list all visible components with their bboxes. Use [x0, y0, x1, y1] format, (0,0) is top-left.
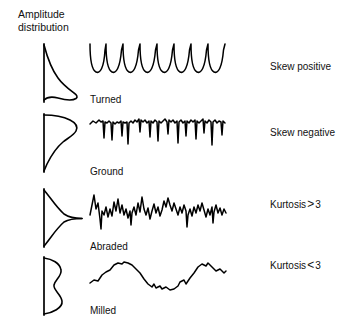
stat-value: 3	[315, 199, 321, 210]
figure-heading: Amplitude distribution	[18, 8, 128, 33]
platykurtic-curve	[30, 253, 92, 319]
stat-prefix: Kurtosis	[270, 260, 306, 271]
greater-than-icon: >	[306, 197, 315, 211]
figure-row-turned: Turned Skew positive	[0, 40, 350, 118]
figure-row-ground: Ground Skew negative	[0, 110, 350, 188]
figure-row-milled: Milled Kurtosis<3	[0, 253, 350, 325]
process-label-milled: Milled	[90, 305, 116, 316]
positive-skew-curve	[30, 40, 92, 106]
process-label-abraded: Abraded	[90, 241, 128, 252]
less-than-icon: <	[306, 258, 315, 272]
process-label-turned: Turned	[90, 94, 121, 105]
turned-profile	[88, 40, 228, 96]
stat-label-kurtosis-low: Kurtosis<3	[270, 258, 321, 272]
stat-prefix: Skew positive	[270, 61, 331, 72]
stat-prefix: Kurtosis	[270, 199, 306, 210]
leptokurtic-curve	[30, 185, 92, 251]
stat-prefix: Skew negative	[270, 127, 335, 138]
stat-label-kurtosis-high: Kurtosis>3	[270, 197, 321, 211]
abraded-profile	[88, 185, 228, 241]
process-label-ground: Ground	[90, 166, 123, 177]
negative-skew-curve	[30, 110, 92, 176]
figure-row-abraded: Abraded Kurtosis>3	[0, 185, 350, 263]
stat-label-skew-negative: Skew negative	[270, 127, 335, 138]
milled-profile	[88, 253, 228, 309]
stat-value: 3	[315, 260, 321, 271]
stat-label-skew-positive: Skew positive	[270, 61, 331, 72]
amplitude-distribution-figure: Amplitude distribution Turned Skew posit…	[0, 0, 350, 325]
ground-profile	[88, 110, 228, 166]
